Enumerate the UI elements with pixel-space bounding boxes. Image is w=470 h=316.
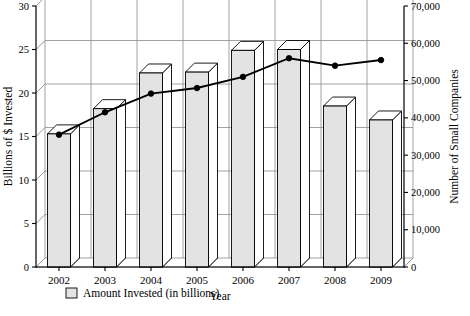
bar-front-2004 — [140, 73, 163, 267]
line-marker-2006 — [240, 74, 246, 80]
y-tick-label-right-10,000: 10,000 — [411, 224, 440, 235]
line-marker-2007 — [286, 55, 292, 61]
gridline-depth-30 — [36, 0, 45, 6]
y-tick-label-left-25: 25 — [19, 44, 30, 55]
bar-front-2008 — [324, 106, 347, 267]
y-tick-label-left-0: 0 — [24, 262, 29, 273]
line-marker-2003 — [102, 109, 108, 115]
gridline-depth-20 — [36, 84, 45, 93]
legend-swatch-amount-invested — [66, 288, 77, 298]
bars-group — [48, 41, 402, 268]
x-tick-label-2005: 2005 — [186, 274, 209, 286]
y-tick-label-left-30: 30 — [19, 1, 30, 12]
bar-2005 — [186, 63, 218, 267]
bar-side-2006 — [255, 41, 264, 267]
x-tick-label-2002: 2002 — [48, 274, 70, 286]
bar-side-2009 — [393, 111, 402, 267]
y-tick-label-left-15: 15 — [19, 131, 30, 142]
gridline-depth-0 — [36, 258, 45, 267]
gridline-depth-15 — [36, 128, 45, 137]
line-marker-2004 — [148, 91, 154, 97]
bar-side-2005 — [209, 63, 218, 267]
bar-2008 — [324, 97, 356, 267]
y-tick-label-right-30,000: 30,000 — [411, 150, 440, 161]
bar-side-2002 — [71, 125, 80, 267]
legend-label-amount-invested: Amount Invested (in billions) — [83, 287, 220, 300]
y-tick-label-right-0: 0 — [411, 262, 416, 273]
gridlines-group — [36, 0, 413, 267]
y-tick-label-right-50,000: 50,000 — [411, 75, 440, 86]
line-marker-2008 — [332, 63, 338, 69]
y-tick-label-right-40,000: 40,000 — [411, 112, 440, 123]
bar-2007 — [278, 41, 310, 268]
y-tick-label-right-70,000: 70,000 — [411, 1, 440, 12]
bar-2009 — [370, 111, 402, 267]
x-tick-label-2008: 2008 — [324, 274, 347, 286]
bar-2004 — [140, 64, 172, 267]
bar-2003 — [94, 100, 126, 267]
x-tick-label-2003: 2003 — [94, 274, 117, 286]
y-tick-label-left-20: 20 — [19, 88, 30, 99]
gridline-depth-10 — [36, 171, 45, 180]
bar-front-2007 — [278, 50, 301, 268]
bar-front-2002 — [48, 134, 71, 267]
gridline-depth-5 — [36, 215, 45, 224]
bar-front-2009 — [370, 120, 393, 267]
x-tick-label-2004: 2004 — [140, 274, 163, 286]
x-tick-label-2007: 2007 — [278, 274, 301, 286]
bar-front-2005 — [186, 72, 209, 267]
bar-side-2003 — [117, 100, 126, 267]
line-marker-2009 — [378, 57, 384, 63]
bar-side-2008 — [347, 97, 356, 267]
bar-side-2007 — [301, 41, 310, 268]
combo-chart: 051015202530010,00020,00030,00040,00050,… — [0, 0, 470, 316]
legend-group: Amount Invested (in billions) — [66, 287, 220, 300]
y-tick-label-left-5: 5 — [24, 218, 29, 229]
y-tick-label-right-60,000: 60,000 — [411, 38, 440, 49]
bar-side-2004 — [163, 64, 172, 267]
gridline-depth-25 — [36, 41, 45, 50]
bar-2002 — [48, 125, 80, 267]
y-tick-label-left-10: 10 — [19, 175, 30, 186]
line-marker-2005 — [194, 85, 200, 91]
y-tick-label-right-20,000: 20,000 — [411, 187, 440, 198]
chart-container: 051015202530010,00020,00030,00040,00050,… — [0, 0, 470, 316]
x-tick-label-2006: 2006 — [232, 274, 255, 286]
y-axis-title-right: Number of Small Companies — [448, 69, 461, 204]
line-marker-2002 — [56, 132, 62, 138]
bar-front-2003 — [94, 109, 117, 267]
x-tick-label-2009: 2009 — [370, 274, 393, 286]
bar-front-2006 — [232, 50, 255, 267]
y-axis-title-left: Billions of $ Invested — [2, 87, 14, 187]
